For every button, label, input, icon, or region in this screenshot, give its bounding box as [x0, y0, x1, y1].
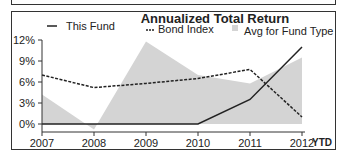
legend-avg-fund-type: Avg for Fund Type — [244, 25, 333, 37]
x-tick-label: 2010 — [186, 137, 210, 149]
x-tick-label: 2007 — [30, 137, 54, 149]
y-tick-label: 12% — [13, 34, 35, 46]
y-tick-label: 9% — [19, 55, 35, 67]
ytd-label: YTD — [312, 137, 332, 148]
legend-bond-index: Bond Index — [158, 23, 214, 35]
y-tick-label: 6% — [19, 76, 35, 88]
legend-this-fund: This Fund — [66, 20, 115, 32]
y-tick-label: 0% — [19, 118, 35, 130]
x-tick-label: 2008 — [82, 137, 106, 149]
x-axis: 200720082009201020112012 — [30, 132, 314, 149]
x-tick-label: 2011 — [238, 137, 262, 149]
x-tick-label: 2009 — [134, 137, 158, 149]
x-tick-label: 2012 — [290, 137, 314, 149]
chart: Annualized Total Return This Fund Bond I… — [0, 0, 341, 163]
y-tick-label: 3% — [19, 97, 35, 109]
y-axis: 0%3%6%9%12% — [13, 34, 42, 132]
avg-fund-type-legend-icon — [232, 25, 238, 31]
legend: This Fund Bond Index Avg for Fund Type — [47, 20, 333, 37]
plot-area — [42, 41, 302, 129]
